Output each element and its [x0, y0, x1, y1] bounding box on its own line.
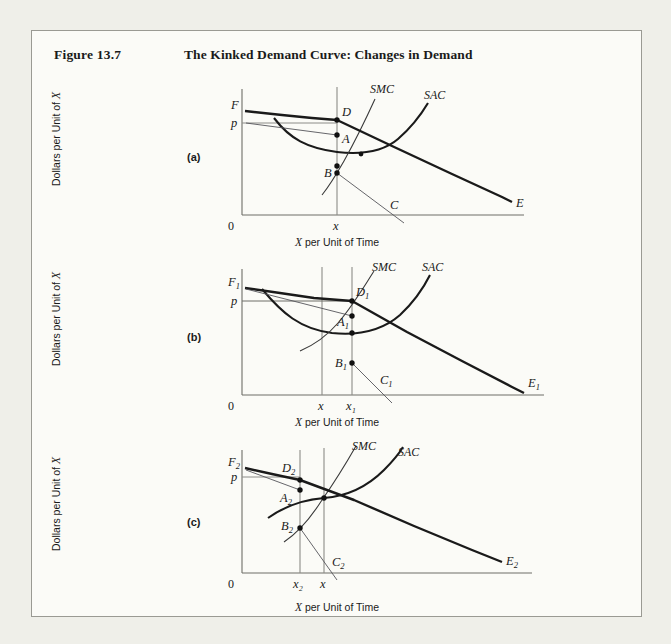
panel-c-xtick-x: x [319, 577, 326, 591]
page-canvas: Figure 13.7 The Kinked Demand Curve: Cha… [0, 0, 671, 644]
panel-a-point-D [334, 117, 339, 122]
panel-a-label-B: B [324, 166, 332, 180]
panel-c-label-A2: A2 [279, 491, 293, 507]
figure-number: Figure 13.7 [54, 47, 121, 63]
panel-a-label-smc: SMC [370, 82, 395, 96]
panel-c-label-D2: D2 [281, 461, 296, 477]
panel-a-label-p: p [230, 116, 237, 130]
panel-a-point-mr-gap-top [334, 163, 339, 168]
panel-b-label-A1: A1 [336, 315, 349, 331]
panel-c-plot: F2 p D2 A2 B2 C2 E2 SMC SAC 0 x₂ x [32, 438, 641, 623]
panel-b-label-sac: SAC [422, 260, 444, 274]
panel-b-label-smc: SMC [372, 260, 397, 274]
panel-c-origin: 0 [228, 577, 234, 591]
panel-c-point-A2 [297, 487, 302, 492]
panel-a-demand-curve [245, 111, 512, 202]
panel-a-origin: 0 [228, 219, 234, 233]
panel-c: (c) Dollars per Unit of X X per Unit of … [32, 438, 641, 623]
panel-b-label-p: p [230, 294, 237, 308]
panel-b-point-A1 [349, 313, 354, 318]
figure-frame: Figure 13.7 The Kinked Demand Curve: Cha… [31, 30, 642, 617]
panel-b-label-C1: C1 [380, 373, 393, 389]
panel-a-point-B [334, 170, 339, 175]
panel-a-label-F: F [230, 98, 239, 112]
panel-a: (a) Dollars per Unit of X X per Unit of … [32, 73, 641, 258]
panel-b-smc-curve [300, 271, 374, 351]
panel-b-label-B1: B1 [335, 356, 347, 372]
panel-c-label-E2: E2 [505, 554, 519, 570]
panel-a-label-E: E [515, 196, 524, 210]
panel-a-point-A [334, 132, 339, 137]
panel-b-label-F1: F1 [227, 275, 240, 291]
panel-a-plot: F p D A B C E SMC SAC 0 x [32, 73, 641, 258]
panel-c-label-F2: F2 [227, 455, 241, 471]
panel-c-label-p: p [230, 470, 237, 484]
panel-b-point-D1 [349, 298, 354, 303]
panel-b-label-D1: D1 [355, 285, 369, 301]
panel-c-label-B2: B2 [281, 519, 294, 535]
panel-c-point-smc-sac-cross [321, 495, 326, 500]
panel-c-mr-lower-segment [300, 528, 337, 580]
panel-b-xtick-x: x [317, 399, 324, 413]
panel-c-sac-curve [268, 447, 403, 518]
panel-a-xtick-x: x [332, 219, 339, 233]
panel-b-label-E1: E1 [527, 376, 540, 392]
panel-b-point-B1 [349, 360, 354, 365]
figure-title: The Kinked Demand Curve: Changes in Dema… [184, 47, 472, 63]
panel-b-xtick-x1: x₁ [345, 399, 356, 413]
panel-c-demand-curve [245, 468, 502, 562]
panel-a-label-sac: SAC [424, 88, 446, 102]
panel-a-point-smc-sac-cross [359, 152, 364, 157]
panel-a-mr-upper-segment [246, 123, 337, 135]
panel-a-label-C: C [390, 198, 399, 212]
panel-b: (b) Dollars per Unit of X X per Unit of … [32, 253, 641, 438]
panel-c-label-smc: SMC [352, 439, 377, 453]
panel-b-plot: F1 p D1 A1 B1 C1 E1 SMC SAC 0 x x₁ [32, 253, 641, 438]
panel-c-point-B2 [297, 525, 302, 530]
panel-a-label-A: A [341, 132, 350, 146]
panel-b-mr-upper-segment [246, 289, 352, 316]
panel-c-point-D2 [297, 477, 302, 482]
panel-b-origin: 0 [228, 399, 234, 413]
panel-c-label-C2: C2 [332, 555, 345, 571]
panel-a-label-D: D [341, 105, 351, 119]
panel-c-xtick-x2: x₂ [292, 577, 304, 591]
panel-c-label-sac: SAC [398, 445, 420, 459]
panel-b-point-sac-min [349, 330, 354, 335]
